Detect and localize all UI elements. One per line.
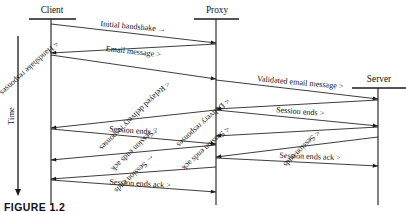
sequence-diagram-figure: Time ClientProxyServer Initial handshake… <box>0 0 406 212</box>
message-line-m3 <box>51 55 216 79</box>
message-line-m9 <box>216 127 378 136</box>
time-axis: Time <box>6 36 21 196</box>
message-label-m5: < Delivery responses <box>175 97 232 150</box>
message-label-m1: Initial handshake → <box>100 19 166 34</box>
actor-label-server: Server <box>367 74 392 84</box>
figure-caption: FIGURE 1.2 <box>4 201 65 212</box>
actor-label-client: Client <box>41 5 64 15</box>
message-arrow-head-m12 <box>373 164 378 168</box>
message-label-m2: < Handshake responses <box>0 40 61 98</box>
time-axis-label: Time <box>6 107 16 125</box>
message-label-m7: Session ends > <box>276 105 325 118</box>
message-label-m3: Email message > <box>105 44 161 59</box>
sequence-diagram-canvas: Time ClientProxyServer Initial handshake… <box>0 0 406 212</box>
message-labels-group: Initial handshake →< Handshake responses… <box>0 19 344 195</box>
message-label-m4: Validated email message > <box>257 74 344 91</box>
actor-label-proxy: Proxy <box>206 5 229 15</box>
message-arrow-head-m3 <box>211 76 216 80</box>
time-arrow-head-icon <box>15 189 21 196</box>
